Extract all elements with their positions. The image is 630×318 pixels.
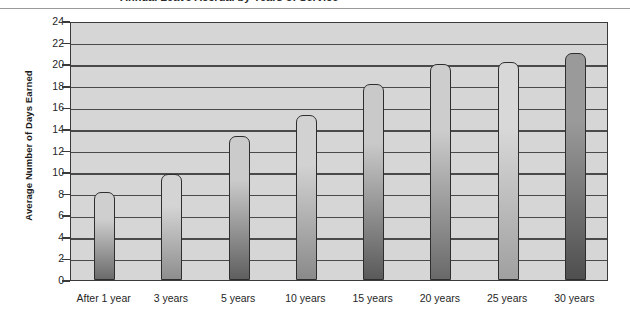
y-tick-label: 20: [24, 59, 64, 70]
x-tick-label: 5 years: [205, 292, 272, 304]
y-tick-mark: [62, 259, 70, 261]
y-tick-mark: [62, 237, 70, 239]
y-tick-mark: [62, 21, 70, 23]
y-tick-mark: [62, 280, 70, 282]
plot-area: [70, 22, 608, 281]
y-tick-mark: [62, 43, 70, 45]
bar: [565, 53, 586, 280]
y-tick-label: 14: [24, 124, 64, 135]
y-tick-mark: [62, 108, 70, 110]
y-tick-label: 16: [24, 102, 64, 113]
bar: [363, 84, 384, 280]
y-tick-label: 12: [24, 146, 64, 157]
y-tick-label: 24: [24, 16, 64, 27]
x-tick-label: 10 years: [272, 292, 339, 304]
bar: [94, 192, 115, 280]
y-tick-mark: [62, 172, 70, 174]
y-tick-label: 2: [24, 253, 64, 264]
x-tick-label: 15 years: [339, 292, 406, 304]
y-tick-mark: [62, 86, 70, 88]
y-tick-label: 18: [24, 81, 64, 92]
y-tick-label: 0: [24, 275, 64, 286]
bar: [161, 174, 182, 280]
y-tick-label: 8: [24, 189, 64, 200]
x-tick-label: 30 years: [541, 292, 608, 304]
y-tick-label: 4: [24, 232, 64, 243]
bar: [296, 115, 317, 280]
y-tick-mark: [62, 64, 70, 66]
bar: [430, 64, 451, 280]
y-tick-mark: [62, 151, 70, 153]
header-divider: [0, 8, 630, 9]
y-tick-mark: [62, 129, 70, 131]
y-tick-mark: [62, 215, 70, 217]
y-tick-label: 6: [24, 210, 64, 221]
x-tick-label: 3 years: [137, 292, 204, 304]
x-tick-label: 20 years: [406, 292, 473, 304]
bar: [498, 62, 519, 280]
bar-chart: Annual Leave Accrual by Years of Service…: [0, 0, 630, 318]
x-tick-label: After 1 year: [70, 292, 137, 304]
bar: [229, 136, 250, 280]
y-tick-label: 10: [24, 167, 64, 178]
y-tick-label: 22: [24, 38, 64, 49]
y-tick-mark: [62, 194, 70, 196]
chart-title: Annual Leave Accrual by Years of Service: [120, 0, 338, 3]
bars-group: [71, 23, 607, 280]
x-tick-label: 25 years: [474, 292, 541, 304]
